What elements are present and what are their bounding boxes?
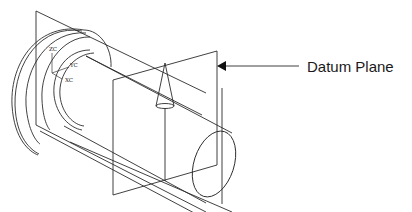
axis-label-yc: YC — [69, 62, 78, 68]
coordinate-triad: ZC YC XC — [49, 46, 78, 83]
normal-vector-arrow — [156, 63, 174, 181]
datum-plane-label: Datum Plane — [307, 58, 394, 75]
axis-label-zc: ZC — [49, 46, 57, 52]
flange — [12, 29, 111, 155]
datum-plane-diagram: ZC YC XC — [0, 0, 412, 212]
callout-leader — [217, 61, 299, 71]
arrowhead-icon — [217, 61, 226, 71]
axis-label-xc: XC — [65, 77, 73, 83]
datum-plane-vertical — [36, 11, 206, 212]
